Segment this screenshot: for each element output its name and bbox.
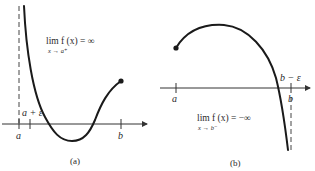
label-b: b [118, 130, 123, 141]
endpoint-dot-b [118, 78, 123, 83]
caption-a: (a) [70, 156, 80, 166]
limit-diagram: a a + ε b lim f (x) = ∞ x → a⁺ (a) a b −… [0, 0, 315, 171]
limit-subscript-b: x → b⁻ [197, 124, 217, 131]
function-curve-b [176, 25, 288, 150]
panel-a: a a + ε b lim f (x) = ∞ x → a⁺ (a) [2, 6, 147, 166]
function-curve-a [24, 6, 121, 141]
panel-b: a b − ε b lim f (x) = −∞ x → b⁻ (b) [160, 25, 310, 168]
limit-expression-a: lim f (x) = ∞ [46, 36, 95, 47]
label-a: a [16, 130, 21, 141]
limit-expression-b: lim f (x) = −∞ [197, 113, 251, 124]
label-a: a [172, 93, 177, 104]
limit-subscript-a: x → a⁺ [47, 47, 67, 54]
label-a-plus-eps: a + ε [22, 107, 43, 118]
caption-b: (b) [230, 158, 241, 168]
label-b: b [288, 93, 293, 104]
endpoint-dot-a [173, 45, 178, 50]
label-b-minus-eps: b − ε [280, 72, 301, 83]
